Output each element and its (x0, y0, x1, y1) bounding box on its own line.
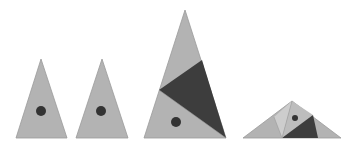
triangle-1-dot (36, 106, 46, 116)
triangle-2-dot (96, 106, 106, 116)
triangle-3 (144, 10, 226, 138)
triangle-4 (243, 101, 341, 138)
triangle-2-body (76, 59, 128, 138)
triangle-1 (16, 59, 67, 138)
triangle-3-dot (171, 117, 181, 127)
triangle-2 (76, 59, 128, 138)
triangle-4-dot (292, 115, 298, 121)
triangle-1-body (16, 59, 67, 138)
diagram-canvas (0, 0, 356, 145)
